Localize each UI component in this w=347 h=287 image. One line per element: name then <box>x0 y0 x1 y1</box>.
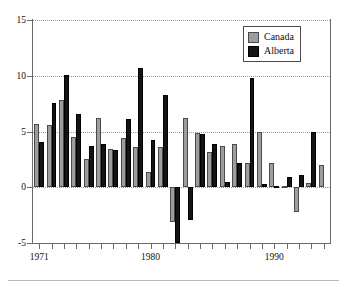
y-axis-label--5: -5 <box>18 238 26 248</box>
x-tick-1972 <box>52 244 53 249</box>
x-tick-1987 <box>237 244 238 249</box>
bar-group-1984 <box>195 20 205 243</box>
x-axis-label-1980: 1980 <box>141 252 160 263</box>
bar-group-1983 <box>183 20 193 243</box>
bar-group-1971 <box>34 20 44 243</box>
y-axis-label-5: 5 <box>21 127 26 137</box>
bar-alberta-1974 <box>76 114 81 188</box>
legend-item-alberta: Alberta <box>248 44 294 58</box>
bar-canada-1994 <box>319 165 324 187</box>
y-tick--5 <box>27 243 33 244</box>
x-tick-1994 <box>324 244 325 249</box>
x-tick-1978 <box>126 244 127 249</box>
x-tick-1981 <box>163 244 164 249</box>
y-axis-label-10: 10 <box>17 71 27 81</box>
chart-legend: Canada Alberta <box>243 26 301 62</box>
x-tick-1988 <box>250 244 251 249</box>
x-tick-1973 <box>64 244 65 249</box>
bar-group-1981 <box>158 20 168 243</box>
right-axis-line <box>330 19 331 244</box>
x-tick-1991 <box>287 244 288 249</box>
bar-alberta-1977 <box>113 150 118 187</box>
x-tick-1984 <box>200 244 201 249</box>
x-tick-1990 <box>274 244 275 249</box>
bar-alberta-1985 <box>212 144 217 187</box>
bar-alberta-1988 <box>250 78 255 187</box>
bar-alberta-1972 <box>52 103 57 188</box>
bar-alberta-1993 <box>311 132 316 188</box>
bar-group-1982 <box>170 20 180 243</box>
legend-label-alberta: Alberta <box>264 45 294 57</box>
legend-item-canada: Canada <box>248 30 294 44</box>
x-tick-1982 <box>175 244 176 249</box>
bar-group-1974 <box>71 20 81 243</box>
x-axis-label-1971: 1971 <box>30 252 49 263</box>
bar-group-1985 <box>207 20 217 243</box>
x-tick-1989 <box>262 244 263 249</box>
y-axis-label-15: 15 <box>17 15 27 25</box>
y-axis-label-0: 0 <box>21 182 26 192</box>
bar-group-1976 <box>96 20 106 243</box>
bar-alberta-1983 <box>188 187 193 219</box>
bar-alberta-1973 <box>64 75 69 188</box>
bar-alberta-1975 <box>89 146 94 187</box>
bar-group-1975 <box>84 20 94 243</box>
bar-group-1972 <box>47 20 57 243</box>
bar-group-1979 <box>133 20 143 243</box>
bottom-rule <box>8 280 339 281</box>
bar-group-1986 <box>220 20 230 243</box>
bar-group-1977 <box>108 20 118 243</box>
x-tick-1976 <box>101 244 102 249</box>
x-tick-1985 <box>212 244 213 249</box>
bar-alberta-1980 <box>151 140 156 187</box>
x-tick-1971 <box>39 244 40 249</box>
bar-canada-1989 <box>257 132 262 188</box>
x-tick-1979 <box>138 244 139 249</box>
bar-alberta-1986 <box>225 182 230 188</box>
bar-group-1993 <box>306 20 316 243</box>
bar-chart-figure: -5051015 197119801990 Canada Alberta <box>0 0 347 287</box>
bar-alberta-1981 <box>163 95 168 188</box>
x-tick-1974 <box>76 244 77 249</box>
bar-canada-1990 <box>269 163 274 188</box>
bar-alberta-1991 <box>287 177 292 187</box>
bar-alberta-1987 <box>237 163 242 188</box>
legend-swatch-alberta-icon <box>248 46 259 57</box>
bar-group-1987 <box>232 20 242 243</box>
bar-alberta-1992 <box>299 175 304 187</box>
bar-canada-1983 <box>183 118 188 187</box>
x-tick-1992 <box>299 244 300 249</box>
bar-group-1994 <box>319 20 329 243</box>
bar-alberta-1990 <box>274 186 279 188</box>
legend-swatch-canada-icon <box>248 32 259 43</box>
bar-alberta-1984 <box>200 134 205 188</box>
bar-alberta-1971 <box>39 142 44 188</box>
bar-alberta-1989 <box>262 184 267 187</box>
bar-alberta-1982 <box>175 187 180 243</box>
x-tick-1980 <box>151 244 152 249</box>
bar-group-1973 <box>59 20 69 243</box>
x-tick-1983 <box>188 244 189 249</box>
bar-alberta-1978 <box>126 119 131 187</box>
x-tick-1975 <box>89 244 90 249</box>
x-tick-1986 <box>225 244 226 249</box>
x-tick-1993 <box>311 244 312 249</box>
bar-group-1980 <box>146 20 156 243</box>
bar-canada-1992 <box>294 187 299 212</box>
x-axis-label-1990: 1990 <box>265 252 284 263</box>
legend-label-canada: Canada <box>264 31 294 43</box>
x-tick-1977 <box>113 244 114 249</box>
bar-alberta-1979 <box>138 68 143 187</box>
bar-alberta-1976 <box>101 144 106 187</box>
bar-group-1978 <box>121 20 131 243</box>
